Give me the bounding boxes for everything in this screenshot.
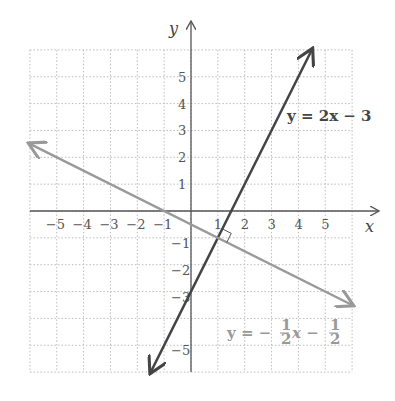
equation-label-line1: y = 2x − 3 xyxy=(286,107,372,125)
x-tick-label: −5 xyxy=(46,217,65,232)
x-tick-label: 3 xyxy=(268,217,276,232)
frac-den-1: 2 xyxy=(281,330,291,348)
y-tick-label: 3 xyxy=(178,123,186,138)
x-axis-label: x xyxy=(365,217,374,236)
frac-den-2: 2 xyxy=(330,330,340,348)
y-tick-label: 1 xyxy=(178,177,186,192)
equation-label-line2: y = − 1 2 x − 1 2 xyxy=(226,316,340,348)
eq2-x: x − xyxy=(291,324,319,342)
coordinate-plane: −5−4−3−2−11234554321−1−2−3−5 y x y = 2x … xyxy=(0,0,395,401)
y-axis-label: y xyxy=(168,19,179,38)
x-tick-label: −1 xyxy=(153,217,172,232)
y-tick-label: 2 xyxy=(178,150,186,165)
y-tick-label: 5 xyxy=(178,70,186,85)
y-tick-label: −1 xyxy=(171,236,190,251)
x-tick-label: −2 xyxy=(126,217,145,232)
eq2-prefix: y = − xyxy=(226,324,271,342)
y-tick-label: −2 xyxy=(171,263,190,278)
y-tick-label: −5 xyxy=(171,343,190,358)
x-tick-label: 2 xyxy=(241,217,249,232)
y-tick-label: 4 xyxy=(178,97,186,112)
x-tick-label: 5 xyxy=(321,217,329,232)
axes xyxy=(30,22,378,372)
x-tick-label: −4 xyxy=(73,217,92,232)
x-tick-label: −3 xyxy=(99,217,118,232)
x-tick-label: 4 xyxy=(294,217,302,232)
